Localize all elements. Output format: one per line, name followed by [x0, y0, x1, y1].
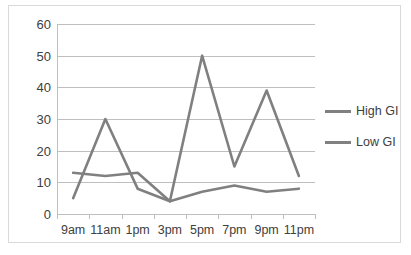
x-tick-mark-1 — [89, 214, 90, 219]
x-tick-label-9pm: 9pm — [254, 223, 278, 237]
legend-item-low-gi[interactable]: Low GI — [325, 135, 398, 149]
x-tick-label-7pm: 7pm — [222, 223, 246, 237]
x-tick-mark-0 — [57, 214, 58, 219]
series-lines — [57, 24, 315, 214]
plot-area: 0102030405060 9am11am1pm3pm5pm7pm9pm11pm — [57, 24, 315, 214]
x-tick-label-11pm: 11pm — [284, 223, 314, 237]
y-tick-label-10: 10 — [37, 175, 51, 190]
legend-swatch-icon — [325, 110, 351, 113]
chart-legend: High GILow GI — [325, 104, 398, 149]
x-tick-label-3pm: 3pm — [158, 223, 182, 237]
y-tick-label-0: 0 — [44, 207, 51, 222]
legend-label: High GI — [356, 104, 398, 118]
x-tick-mark-3 — [154, 214, 155, 219]
legend-item-high-gi[interactable]: High GI — [325, 104, 398, 118]
y-tick-label-60: 60 — [37, 17, 51, 32]
x-tick-mark-8 — [315, 214, 316, 219]
chart-frame: 0102030405060 9am11am1pm3pm5pm7pm9pm11pm… — [8, 5, 401, 243]
y-tick-label-20: 20 — [37, 143, 51, 158]
y-tick-label-40: 40 — [37, 80, 51, 95]
x-tick-label-9am: 9am — [61, 223, 85, 237]
x-tick-mark-4 — [186, 214, 187, 219]
y-tick-label-50: 50 — [37, 48, 51, 63]
x-tick-label-11am: 11am — [90, 223, 120, 237]
series-line-low-gi — [73, 173, 299, 202]
x-tick-mark-6 — [251, 214, 252, 219]
legend-swatch-icon — [325, 141, 351, 144]
legend-label: Low GI — [356, 135, 396, 149]
x-tick-mark-5 — [218, 214, 219, 219]
x-tick-mark-2 — [122, 214, 123, 219]
x-tick-label-5pm: 5pm — [190, 223, 214, 237]
series-line-high-gi — [73, 56, 299, 202]
y-tick-label-30: 30 — [37, 112, 51, 127]
x-tick-label-1pm: 1pm — [125, 223, 149, 237]
x-tick-mark-7 — [283, 214, 284, 219]
